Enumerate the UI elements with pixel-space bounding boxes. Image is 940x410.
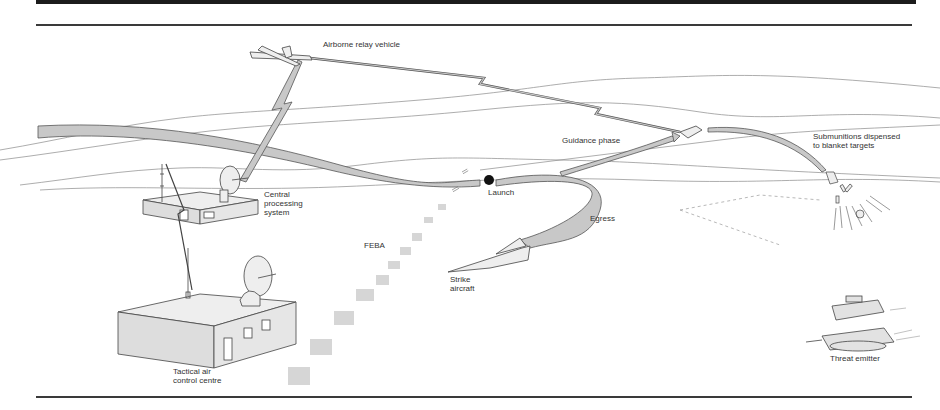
target-area-lines [680,195,820,245]
relay-datalink [310,58,680,132]
label-submunitions: Submunitions dispensed to blanket target… [813,132,900,150]
submunitions-icon [826,172,864,218]
label-threat-emitter: Threat emitter [830,354,880,363]
label-airborne-relay: Airborne relay vehicle [323,40,400,49]
antenna-mast-icon [160,164,164,202]
feba-line [288,169,468,384]
launch-point-icon [484,175,494,185]
egress-band [496,175,601,248]
label-launch: Launch [488,188,514,197]
label-strike-aircraft: Strike aircraft [450,275,474,293]
motion-lines [890,308,920,340]
central-processing-building [143,192,258,224]
tactical-dish-icon [240,256,276,306]
ground-datalink-lightning [240,60,302,182]
label-guidance-phase: Guidance phase [562,136,620,145]
label-central-processing: Central processing system [264,190,303,217]
strike-aircraft-icon [448,238,530,272]
diagram-canvas [0,0,940,410]
missile-icon [680,126,702,138]
label-egress: Egress [590,214,615,223]
dispense-band [708,127,826,172]
label-feba: FEBA [364,241,385,250]
threat-emitter-icon [806,296,894,351]
label-tactical-air: Tactical air control centre [173,367,221,385]
airborne-relay-icon [250,46,312,66]
tactical-air-building [118,294,296,368]
